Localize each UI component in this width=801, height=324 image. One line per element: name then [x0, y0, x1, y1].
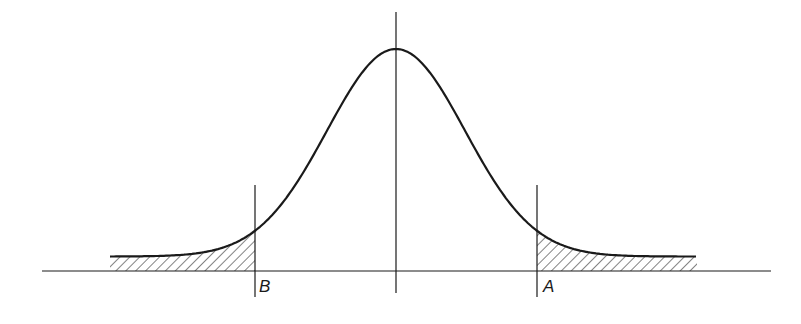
- label-a: A: [542, 277, 554, 296]
- bell-curve: [110, 49, 696, 257]
- right-tail-shaded-region: [537, 231, 697, 271]
- normal-distribution-diagram: B A: [0, 0, 801, 324]
- label-b: B: [259, 277, 270, 296]
- left-tail-shaded-region: [110, 231, 255, 271]
